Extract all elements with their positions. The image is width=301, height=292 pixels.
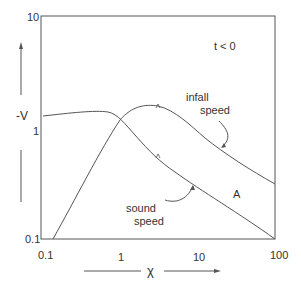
x-tick-0-1: 0.1 — [38, 250, 53, 261]
y-arrow-head-icon — [19, 42, 23, 49]
sound-label-line1: sound — [126, 203, 156, 214]
y-tick-1: 1 — [33, 126, 39, 137]
x-arrow-head-icon — [214, 269, 221, 273]
x-tick-1: 1 — [118, 252, 124, 263]
sound-label-line2: speed — [134, 216, 164, 227]
region-a-label: A — [233, 189, 240, 200]
plot-frame — [41, 16, 275, 239]
infall-label-line2: speed — [200, 105, 230, 116]
x-tick-10: 10 — [193, 252, 205, 263]
y-tick-10: 10 — [27, 12, 39, 23]
infall-pointer-arrow — [219, 121, 228, 147]
condition-label: t < 0 — [214, 41, 236, 52]
y-tick-0-1: 0.1 — [25, 234, 40, 245]
infall-speed-curve — [53, 105, 275, 239]
x-axis-label: χ — [147, 264, 154, 277]
infall-label-line1: infall — [186, 92, 209, 103]
x-tick-100: 100 — [270, 250, 288, 261]
sound-tick-icon — [156, 154, 160, 158]
y-axis-label: -V — [16, 110, 28, 122]
sound-pointer-arrow — [165, 186, 193, 201]
